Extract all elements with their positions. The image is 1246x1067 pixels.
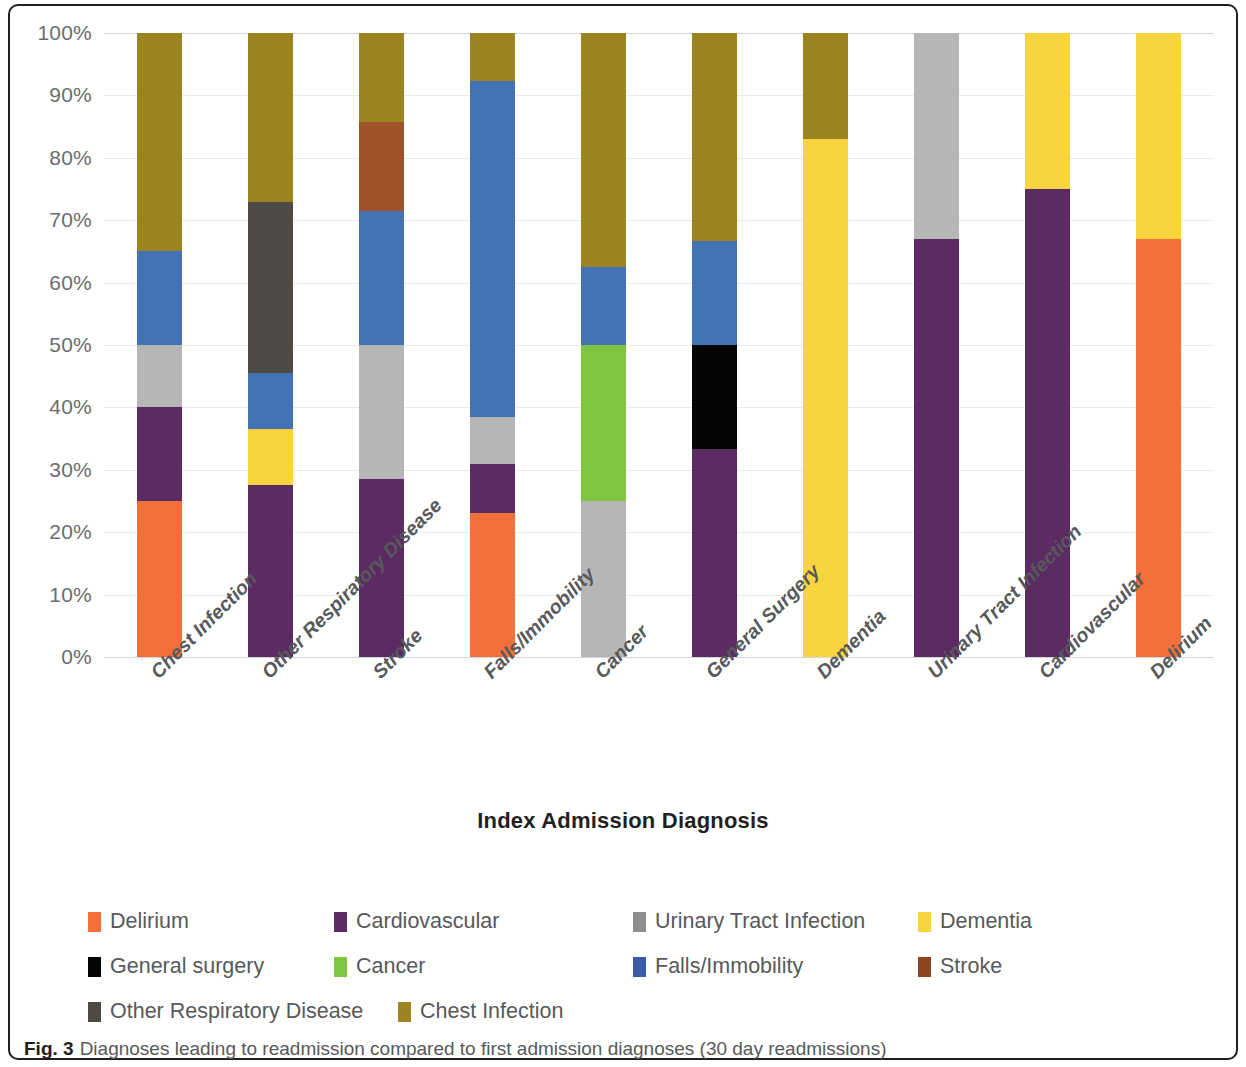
y-axis-tick-label: 0% xyxy=(61,645,92,669)
legend-label: Cancer xyxy=(356,956,425,978)
x-axis-tick-labels: Chest InfectionOther Respiratory Disease… xyxy=(104,657,1214,807)
bar-segment xyxy=(692,241,737,345)
legend-label: Delirium xyxy=(110,911,189,933)
legend-item[interactable]: General surgery xyxy=(88,951,264,983)
bar-segment xyxy=(359,211,404,345)
legend-label: Dementia xyxy=(940,911,1032,933)
bar-segment xyxy=(359,345,404,479)
y-axis-tick-label: 60% xyxy=(49,271,92,295)
legend-item[interactable]: Cancer xyxy=(334,951,425,983)
bar-segment xyxy=(581,267,626,345)
y-axis-tick-label: 30% xyxy=(49,458,92,482)
bar-segment xyxy=(1136,33,1181,239)
legend-swatch-icon xyxy=(398,1002,411,1022)
figure-caption: Fig. 3Diagnoses leading to readmission c… xyxy=(24,1038,1222,1060)
y-axis-tick-label: 10% xyxy=(49,583,92,607)
legend-swatch-icon xyxy=(633,957,646,977)
y-axis-tick-label: 20% xyxy=(49,520,92,544)
bar-segment xyxy=(1025,33,1070,189)
legend-swatch-icon xyxy=(918,912,931,932)
y-axis-tick-label: 80% xyxy=(49,146,92,170)
bar-segment xyxy=(692,449,737,657)
stacked-bar xyxy=(1136,33,1181,657)
bar-segment xyxy=(470,33,515,81)
bar-segment xyxy=(470,417,515,464)
bar-segment xyxy=(248,202,293,374)
legend-item[interactable]: Cardiovascular xyxy=(334,906,499,938)
bar-segment xyxy=(914,239,959,657)
legend-swatch-icon xyxy=(334,912,347,932)
bar-segment xyxy=(1136,239,1181,657)
x-axis-title: Index Admission Diagnosis xyxy=(10,808,1236,834)
legend-item[interactable]: Falls/Immobility xyxy=(633,951,803,983)
y-axis-tick-label: 100% xyxy=(37,21,92,45)
bar-segment xyxy=(692,33,737,241)
legend-label: Urinary Tract Infection xyxy=(655,911,865,933)
legend-item[interactable]: Urinary Tract Infection xyxy=(633,906,865,938)
bar-segment xyxy=(470,513,515,657)
chart-legend: DeliriumCardiovascularUrinary Tract Infe… xyxy=(88,906,1168,1041)
bar-segment xyxy=(359,33,404,122)
legend-item[interactable]: Other Respiratory Disease xyxy=(88,996,363,1028)
bar-segment xyxy=(581,345,626,501)
figure-container: 0%10%20%30%40%50%60%70%80%90%100% Chest … xyxy=(8,4,1238,1060)
y-axis-tick-label: 90% xyxy=(49,83,92,107)
bar-segment xyxy=(914,33,959,239)
legend-item[interactable]: Dementia xyxy=(918,906,1032,938)
stacked-bar xyxy=(248,33,293,657)
bar-segment xyxy=(248,33,293,201)
stacked-bar xyxy=(914,33,959,657)
legend-swatch-icon xyxy=(88,1002,101,1022)
legend-item[interactable]: Stroke xyxy=(918,951,1002,983)
y-axis-tick-label: 50% xyxy=(49,333,92,357)
bar-segment xyxy=(803,33,848,139)
bar-segment xyxy=(137,33,182,251)
bar-segment xyxy=(359,122,404,211)
legend-label: Stroke xyxy=(940,956,1002,978)
bar-segment xyxy=(248,429,293,485)
legend-item[interactable]: Delirium xyxy=(88,906,189,938)
legend-swatch-icon xyxy=(334,957,347,977)
legend-label: Chest Infection xyxy=(420,1001,563,1023)
bar-segment xyxy=(137,251,182,345)
y-axis-tick-label: 40% xyxy=(49,395,92,419)
stacked-bar xyxy=(692,33,737,657)
bar-segment xyxy=(581,33,626,267)
bar-segment xyxy=(692,345,737,449)
figure-caption-label: Fig. 3 xyxy=(24,1038,74,1059)
legend-label: General surgery xyxy=(110,956,264,978)
bar-segment xyxy=(470,81,515,417)
y-axis-tick-label: 70% xyxy=(49,208,92,232)
legend-swatch-icon xyxy=(88,912,101,932)
legend-label: Cardiovascular xyxy=(356,911,499,933)
legend-row: DeliriumCardiovascularUrinary Tract Infe… xyxy=(88,906,1168,951)
legend-row: General surgeryCancerFalls/ImmobilityStr… xyxy=(88,951,1168,996)
bar-segment xyxy=(137,501,182,657)
bar-segment xyxy=(248,373,293,429)
stacked-bar xyxy=(137,33,182,657)
bar-segment xyxy=(137,407,182,501)
legend-swatch-icon xyxy=(633,912,646,932)
bar-segment xyxy=(470,464,515,514)
legend-label: Other Respiratory Disease xyxy=(110,1001,363,1023)
legend-item[interactable]: Chest Infection xyxy=(398,996,563,1028)
legend-row: Other Respiratory DiseaseChest Infection xyxy=(88,996,1168,1041)
y-axis-tick-labels: 0%10%20%30%40%50%60%70%80%90%100% xyxy=(10,33,98,657)
stacked-bar xyxy=(470,33,515,657)
bar-segment xyxy=(248,485,293,657)
legend-swatch-icon xyxy=(918,957,931,977)
legend-label: Falls/Immobility xyxy=(655,956,803,978)
figure-caption-text: Diagnoses leading to readmission compare… xyxy=(80,1038,887,1059)
bar-segment xyxy=(137,345,182,407)
stacked-bar xyxy=(581,33,626,657)
legend-swatch-icon xyxy=(88,957,101,977)
